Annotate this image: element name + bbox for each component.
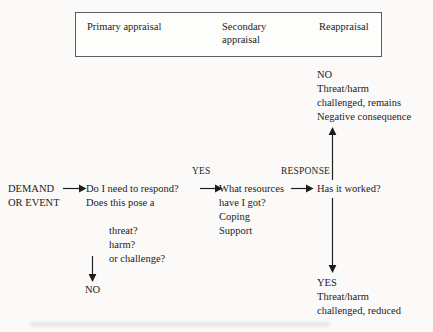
arrow-demand-to-primary xyxy=(63,185,87,193)
node-secondary-appraisal-resources: What resources have I got? Coping Suppor… xyxy=(219,182,284,238)
appraisal-stage-box: Primary appraisal Secondary appraisal Re… xyxy=(75,12,382,57)
node-outcome-negative: NO Threat/harm challenged, remains Negat… xyxy=(317,68,411,124)
scan-artifact xyxy=(30,322,330,327)
arrow-worked-to-outcome-yes xyxy=(329,198,337,273)
flowchart-diagram: Primary appraisal Secondary appraisal Re… xyxy=(0,0,433,332)
stage-label-reappraisal: Reappraisal xyxy=(319,21,369,34)
edge-label-response: RESPONSE xyxy=(281,166,330,177)
node-primary-appraisal-question: Do I need to respond? Does this pose a xyxy=(86,182,179,210)
edge-label-yes: YES xyxy=(192,166,211,177)
arrow-resources-to-worked xyxy=(291,185,314,193)
stage-label-primary-appraisal: Primary appraisal xyxy=(87,21,161,34)
node-reappraisal-question: Has it worked? xyxy=(317,182,381,196)
node-outcome-positive: YES Threat/harm challenged, reduced xyxy=(317,276,401,318)
stage-label-secondary-appraisal: Secondary appraisal xyxy=(222,21,266,46)
node-demand-or-event: DEMAND OR EVENT xyxy=(8,182,60,210)
node-branch-no: NO xyxy=(85,283,100,297)
node-primary-appraisal-options: threat? harm? or challenge? xyxy=(86,224,165,266)
